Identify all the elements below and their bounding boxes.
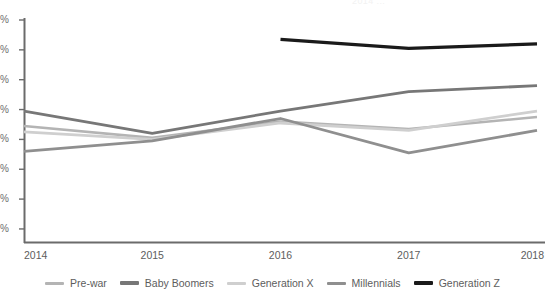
legend-swatch-icon (414, 281, 433, 285)
chart-screenshot: 2014 ... %%%%%%%% 20142015201620172018 P… (0, 0, 545, 299)
x-tick-label: 2018 (521, 249, 544, 261)
legend-item-millennials[interactable]: Millennials (327, 278, 401, 289)
chart-legend: Pre-warBaby BoomersGeneration XMillennia… (0, 272, 545, 294)
series-line-baby-boomers (24, 86, 537, 134)
legend-swatch-icon (327, 282, 346, 285)
legend-label: Pre-war (70, 278, 107, 289)
y-axis-ticks (19, 20, 24, 229)
y-tick-label: % (0, 105, 14, 115)
y-tick-label: % (0, 194, 14, 204)
line-chart-svg (0, 0, 545, 250)
legend-swatch-icon (120, 281, 139, 285)
y-tick-label: % (0, 164, 14, 174)
legend-item-baby-boomers[interactable]: Baby Boomers (120, 278, 214, 289)
legend-label: Generation Z (439, 278, 500, 289)
legend-label: Millennials (352, 278, 401, 289)
y-tick-label: % (0, 15, 14, 25)
legend-item-generation-z[interactable]: Generation Z (414, 278, 500, 289)
x-tick-label: 2015 (141, 249, 164, 261)
x-tick-label: 2016 (269, 249, 292, 261)
legend-swatch-icon (227, 282, 246, 285)
x-tick-label: 2014 (24, 249, 47, 261)
series-line-generation-z (281, 39, 538, 48)
legend-swatch-icon (45, 282, 64, 285)
y-tick-label: % (0, 224, 14, 234)
y-tick-label: % (0, 134, 14, 144)
legend-label: Baby Boomers (145, 278, 214, 289)
y-tick-label: % (0, 75, 14, 85)
legend-item-generation-x[interactable]: Generation X (227, 278, 314, 289)
plot-area: %%%%%%%% 20142015201620172018 (0, 0, 545, 250)
legend-label: Generation X (252, 278, 314, 289)
series-line-pre-war (24, 117, 537, 138)
legend-item-pre-war[interactable]: Pre-war (45, 278, 107, 289)
y-tick-label: % (0, 45, 14, 55)
x-tick-label: 2017 (397, 249, 420, 261)
series-lines (24, 39, 537, 152)
